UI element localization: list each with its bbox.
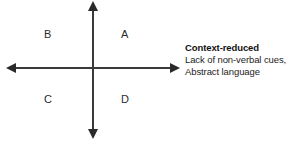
arrowhead-up-icon — [88, 1, 98, 11]
horizontal-axis-right-annotation: Context-reduced Lack of non-verbal cues,… — [185, 42, 297, 78]
quadrant-label-a: A — [121, 29, 129, 40]
quadrant-diagram: B A C D Context-reduced Lack of non-verb… — [0, 0, 299, 146]
annotation-line-2: Abstract language — [185, 66, 297, 78]
quadrant-label-c: C — [44, 94, 52, 105]
quadrant-label-d: D — [121, 94, 129, 105]
annotation-line-1: Lack of non-verbal cues, — [185, 54, 297, 66]
quadrant-label-b: B — [44, 29, 52, 40]
annotation-heading: Context-reduced — [185, 42, 297, 54]
arrowhead-down-icon — [88, 129, 98, 139]
arrowhead-right-icon — [170, 63, 180, 73]
arrowhead-left-icon — [6, 63, 16, 73]
